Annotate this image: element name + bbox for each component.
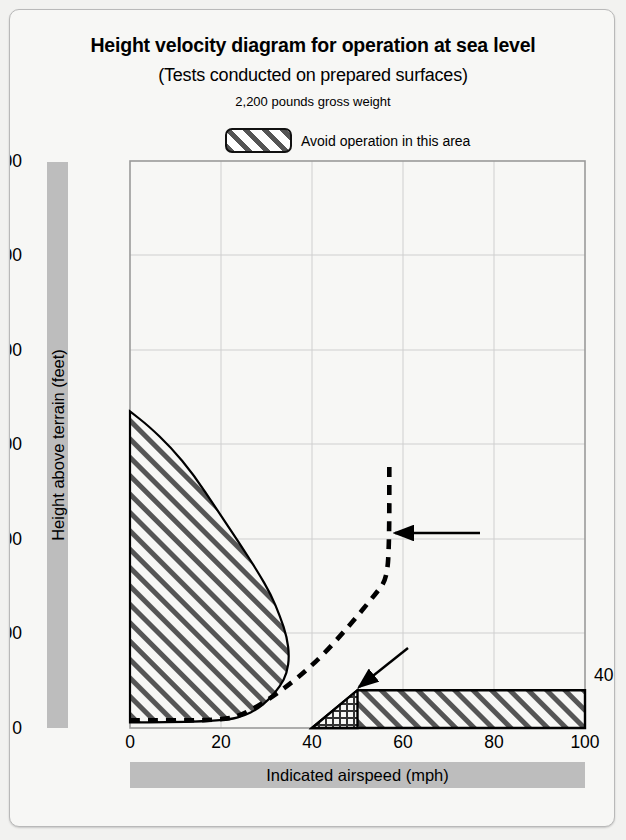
chart-canvas — [10, 10, 615, 827]
diagram-frame: Height velocity diagram for operation at… — [9, 9, 615, 827]
